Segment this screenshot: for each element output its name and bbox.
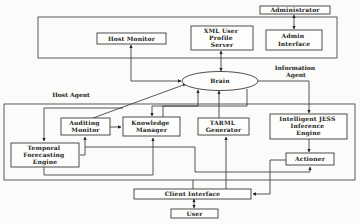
brain-label: Brain (210, 77, 230, 84)
auditing-monitor-label: Auditing Monitor (68, 119, 102, 133)
node-user[interactable]: User (171, 209, 218, 218)
architecture-diagram: Information Agent Host Agent (0, 0, 360, 224)
node-knowledge-manager[interactable]: Knowledge Manager (123, 117, 180, 136)
node-actioner[interactable]: Actioner (286, 153, 334, 165)
node-auditing-monitor[interactable]: Auditing Monitor (61, 118, 110, 135)
administrator-label: Administrator (269, 6, 320, 13)
edge-actioner-client (253, 160, 286, 194)
edge-auditing-brain (93, 84, 186, 118)
host-monitor-label: Host Monitor (108, 35, 156, 42)
client-interface-label: Client Interface (165, 190, 221, 197)
node-admin-interface[interactable]: Admin Interface (266, 30, 322, 50)
edge-temporal-auditing (80, 137, 85, 155)
node-tarml-generator[interactable]: TARML Generator (198, 118, 249, 135)
node-host-monitor[interactable]: Host Monitor (97, 33, 166, 44)
node-temporal-forecasting-engine[interactable]: Temporal Forecasting Engine (11, 143, 79, 167)
node-administrator[interactable]: Administrator (260, 6, 330, 14)
edge-temporal-actioner (85, 147, 310, 172)
edge-brain-jess (258, 81, 309, 113)
admin-interface-label: Admin Interface (278, 32, 310, 47)
edge-host-monitor-brain (131, 45, 181, 81)
node-client-interface[interactable]: Client Interface (134, 189, 251, 199)
node-xml-user-profile-server[interactable]: XML User Profile Server (191, 26, 253, 50)
node-brain[interactable]: Brain (182, 72, 258, 91)
information-agent-label: Information Agent (275, 64, 318, 79)
node-intelligent-jess-inference-engine[interactable]: Intelligent JESS Inference Engine (270, 114, 347, 139)
tarml-generator-label: TARML Generator (206, 119, 242, 133)
edge-brain-route (172, 89, 247, 106)
knowledge-manager-label: Knowledge Manager (131, 119, 172, 134)
host-agent-label: Host Agent (52, 91, 90, 99)
actioner-label: Actioner (294, 155, 326, 162)
user-label: User (186, 210, 203, 217)
